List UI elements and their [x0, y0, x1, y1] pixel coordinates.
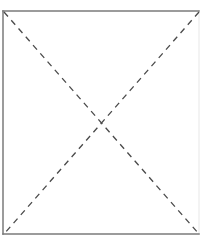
placeholder-box-diagram	[0, 0, 200, 237]
diagram-canvas	[0, 0, 200, 237]
